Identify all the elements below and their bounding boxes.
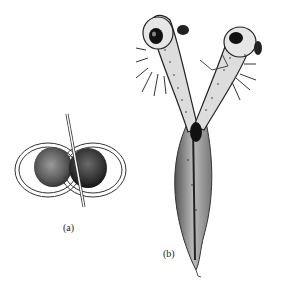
panel-a-label: (a) xyxy=(63,222,74,233)
panel-b-label: (b) xyxy=(163,248,175,259)
panel-b-drawing xyxy=(136,15,262,277)
panel-a-drawing xyxy=(15,114,126,207)
figure-drawing xyxy=(0,0,289,291)
figure: (a) (b) xyxy=(0,0,289,291)
